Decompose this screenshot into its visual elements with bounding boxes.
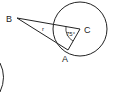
label-b: B <box>6 14 12 24</box>
partial-circle-arc <box>0 63 4 92</box>
geometry-diagram: B C A r 75° <box>0 0 115 93</box>
label-angle-r: r <box>42 26 44 32</box>
label-angle-c: 75° <box>66 31 76 37</box>
label-c: C <box>84 25 91 35</box>
label-a: A <box>62 54 68 64</box>
